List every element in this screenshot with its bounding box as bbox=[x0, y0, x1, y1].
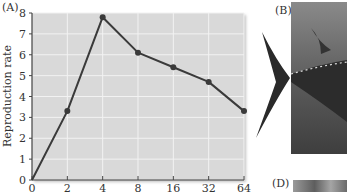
svg-text:32: 32 bbox=[202, 182, 216, 192]
tail-fin bbox=[246, 30, 296, 140]
svg-text:4: 4 bbox=[19, 91, 26, 104]
tuna-body-shape bbox=[291, 2, 347, 154]
svg-text:6: 6 bbox=[19, 49, 26, 62]
svg-text:2: 2 bbox=[64, 182, 71, 192]
svg-text:1: 1 bbox=[19, 153, 26, 166]
svg-text:64: 64 bbox=[237, 182, 251, 192]
svg-text:5: 5 bbox=[19, 70, 26, 83]
svg-text:16: 16 bbox=[166, 182, 180, 192]
panel-d-label: (D) bbox=[272, 177, 289, 190]
tuna-photo bbox=[291, 2, 347, 154]
svg-text:2: 2 bbox=[19, 132, 26, 145]
y-axis-label: Reproduction rate bbox=[1, 45, 14, 147]
svg-text:4: 4 bbox=[99, 182, 106, 192]
photo-d bbox=[293, 180, 347, 192]
svg-text:0: 0 bbox=[19, 174, 26, 187]
panel-b-label: (B) bbox=[275, 4, 292, 17]
svg-text:0: 0 bbox=[29, 182, 36, 192]
svg-text:8: 8 bbox=[135, 182, 142, 192]
svg-text:8: 8 bbox=[19, 7, 26, 20]
reproduction-rate-chart: 012345678 0248163264 Reproduction rate bbox=[0, 0, 270, 192]
y-axis-ticks: 012345678 bbox=[19, 7, 32, 187]
svg-text:7: 7 bbox=[19, 28, 26, 41]
svg-text:3: 3 bbox=[19, 111, 26, 124]
